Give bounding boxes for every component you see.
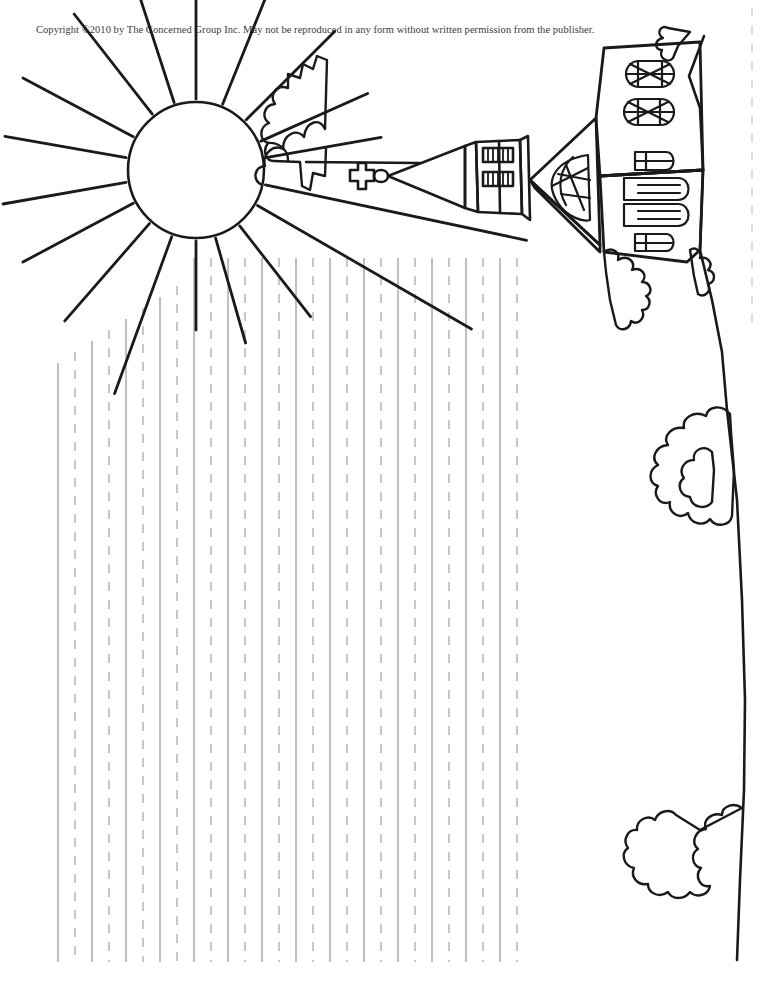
arched-window-small-upper xyxy=(635,152,674,170)
sun-ray xyxy=(240,226,311,317)
sun-ray xyxy=(23,203,133,262)
sun-ray xyxy=(23,78,133,137)
cloud-icon xyxy=(256,56,327,190)
shrub-cluster-middle xyxy=(651,407,735,524)
shrub-cluster-lower xyxy=(624,805,742,898)
sun-icon xyxy=(3,0,527,394)
rose-window-middle xyxy=(624,99,674,125)
worksheet-illustration xyxy=(0,0,765,1001)
rose-window-upper xyxy=(626,61,674,87)
sun-ray xyxy=(216,238,246,343)
church-gable xyxy=(530,118,600,252)
arched-window-small-lower xyxy=(635,234,674,251)
picture-group xyxy=(3,0,752,960)
shrub-cluster-upper xyxy=(604,249,714,330)
sun-ray xyxy=(5,136,126,157)
sun-ray xyxy=(136,0,174,103)
louver-slats xyxy=(488,148,508,186)
sun-ray xyxy=(223,0,266,104)
steeple-spire xyxy=(388,142,478,212)
steeple-cross-icon xyxy=(350,163,388,189)
sun-ray xyxy=(261,94,368,142)
sun-rays xyxy=(3,0,527,394)
arched-window-large-lower xyxy=(624,204,689,226)
sun-ray xyxy=(3,182,126,204)
arched-window-large-upper xyxy=(624,178,689,200)
worksheet-page: Copyright ©2010 by The Concerned Group I… xyxy=(0,0,765,1001)
sun-disc xyxy=(128,102,264,238)
belfry xyxy=(476,136,530,220)
sun-ray xyxy=(65,224,150,321)
sun-ray xyxy=(74,14,152,114)
